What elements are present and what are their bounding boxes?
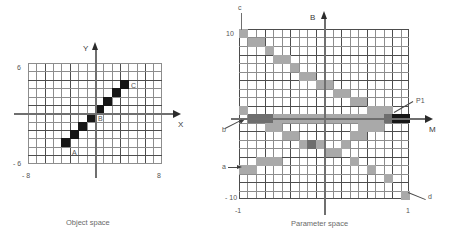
annotation-leader-d — [408, 192, 426, 200]
object-y-axis-label: Y — [83, 45, 88, 53]
annotation-label-d: d — [428, 193, 432, 200]
accumulator-cell — [375, 123, 384, 132]
object-x-max-label: 8 — [157, 172, 161, 179]
object-label-B: B — [98, 115, 103, 122]
annotation-label-P1: P1 — [416, 97, 425, 104]
parameter-m-axis-arrow — [425, 115, 433, 123]
annotation-leader-c — [241, 13, 242, 30]
parameter-b-axis-label: B — [310, 14, 315, 22]
object-x-axis-label: X — [178, 121, 183, 129]
parameter-b-min-label: - 10 — [225, 194, 237, 201]
annotation-arrow-a — [237, 165, 242, 169]
object-point — [78, 122, 87, 131]
object-point — [112, 88, 121, 97]
object-y-axis — [95, 48, 97, 178]
parameter-space-panel: B M 10 - 10 -1 1 c b a d P1 Parameter sp… — [226, 0, 451, 241]
accumulator-cell — [367, 165, 376, 174]
parameter-m-max-label: 1 — [406, 207, 410, 214]
accumulator-cell — [350, 157, 359, 166]
parameter-m-axis-label: M — [429, 126, 436, 134]
parameter-b-axis — [324, 18, 326, 215]
parameter-m-min-label: -1 — [235, 207, 241, 214]
accumulator-cell — [341, 140, 350, 149]
annotation-label-b: b — [222, 126, 226, 133]
accumulator-cell — [358, 131, 367, 140]
object-space-caption: Object space — [66, 218, 110, 227]
annotation-label-a: a — [222, 163, 226, 170]
object-point — [70, 130, 79, 139]
object-space-panel: A B C X Y 6 - 6 - 8 8 Object space — [0, 0, 226, 241]
parameter-m-axis — [231, 118, 427, 120]
parameter-space-caption: Parameter space — [291, 219, 348, 228]
object-label-A: A — [72, 149, 77, 156]
object-x-axis-arrow — [173, 110, 181, 118]
object-y-max-label: 6 — [17, 64, 21, 71]
object-point-C — [120, 80, 129, 89]
parameter-b-max-label: 10 — [226, 30, 234, 37]
accumulator-cell — [333, 148, 342, 157]
annotation-label-c: c — [238, 4, 242, 11]
object-y-min-label: - 6 — [13, 160, 21, 167]
object-y-axis-arrow — [92, 42, 98, 50]
accumulator-cell — [273, 157, 282, 166]
object-point-A — [61, 138, 70, 147]
figure-root: A B C X Y 6 - 6 - 8 8 Object space — [0, 0, 451, 241]
object-point — [103, 97, 112, 106]
object-x-min-label: - 8 — [22, 172, 30, 179]
accumulator-cell — [248, 165, 257, 174]
parameter-b-axis-arrow — [321, 11, 327, 19]
object-label-C: C — [131, 82, 136, 89]
accumulator-cell — [384, 174, 393, 183]
